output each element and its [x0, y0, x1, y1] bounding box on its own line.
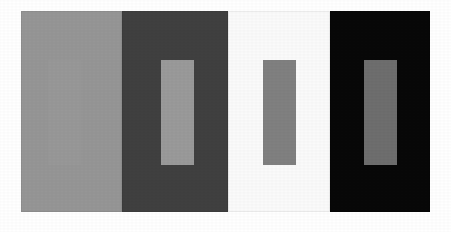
panel-dark-gray: [122, 11, 228, 212]
test-patch-dark-gray-surround: [161, 60, 194, 165]
figure-canvas: [0, 0, 451, 232]
panel-white: [228, 11, 330, 212]
test-patch-black-surround: [364, 60, 397, 165]
panel-light-gray: [21, 11, 122, 212]
test-patch-white-surround: [263, 60, 296, 165]
panel-black: [330, 11, 430, 212]
test-patch-light-gray-surround: [48, 60, 81, 165]
